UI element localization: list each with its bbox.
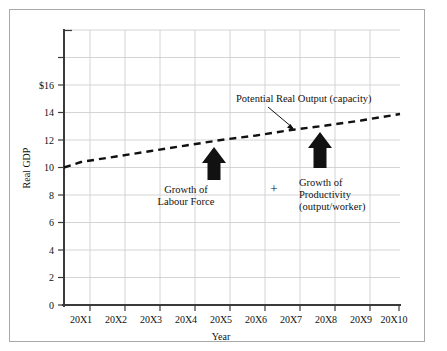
x-tick-label: 20X2	[105, 314, 127, 325]
productivity-label-line1: Growth of	[299, 177, 343, 188]
y-tick-label: $16	[39, 80, 54, 91]
productivity-arrow: Growth of Productivity (output/worker)	[299, 132, 366, 213]
y-tick-label: 8	[49, 190, 54, 201]
x-tick-labels: 20X1 20X2 20X3 20X4 20X5 20X6 20X7 20X8 …	[70, 314, 408, 325]
x-tick-label: 20X6	[245, 314, 267, 325]
chart-canvas: $16 14 12 10 8 6 4 2 0 20X1 20X2 20X3 20…	[0, 0, 447, 351]
productivity-label-line3: (output/worker)	[299, 201, 366, 213]
x-tick-label: 20X3	[140, 314, 162, 325]
plus-operator: +	[270, 181, 277, 196]
y-tick-label: 14	[44, 107, 54, 118]
capacity-callout-label: Potential Real Output (capacity)	[236, 93, 372, 105]
potential-output-line	[64, 114, 400, 168]
y-tick-label: 6	[49, 217, 54, 228]
x-tick-label: 20X8	[315, 314, 337, 325]
productivity-label-line2: Productivity	[299, 189, 352, 200]
x-tick-label: 20X9	[350, 314, 372, 325]
y-tick-label: 0	[49, 300, 54, 311]
y-axis-title: Real GDP	[21, 147, 32, 188]
y-tick-label: 2	[49, 272, 54, 283]
axis-lines	[63, 30, 400, 306]
figure-container: $16 14 12 10 8 6 4 2 0 20X1 20X2 20X3 20…	[0, 0, 447, 351]
horizontal-gridlines	[64, 30, 400, 305]
x-tick-label: 20X4	[175, 314, 197, 325]
y-tick-label: 4	[49, 245, 54, 256]
labour-force-label-line2: Labour Force	[158, 196, 215, 207]
y-tick-label: 12	[44, 135, 54, 146]
x-axis-title: Year	[212, 331, 231, 342]
y-tick-labels: $16 14 12 10 8 6 4 2 0	[39, 80, 54, 311]
y-tick-label: 10	[44, 162, 54, 173]
x-tick-label: 20X10	[380, 314, 407, 325]
labour-force-label-line1: Growth of	[164, 184, 208, 195]
x-tick-label: 20X1	[70, 314, 92, 325]
x-tick-label: 20X5	[210, 314, 232, 325]
labour-force-arrow: Growth of Labour Force	[158, 147, 226, 207]
x-tick-label: 20X7	[280, 314, 302, 325]
capacity-callout: Potential Real Output (capacity)	[236, 93, 372, 131]
